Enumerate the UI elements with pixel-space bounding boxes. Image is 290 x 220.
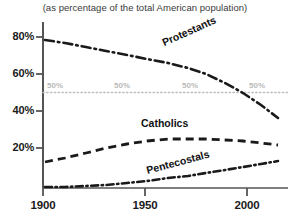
y-tick-label-60: 60% xyxy=(0,67,34,79)
x-tick-label-1950: 1950 xyxy=(123,199,167,211)
x-tick-label-1900: 1900 xyxy=(21,199,65,211)
chart-root: (as percentage of the total American pop… xyxy=(0,0,290,220)
reference-label-50-3: 50% xyxy=(182,81,198,90)
reference-label-50-1: 50% xyxy=(47,81,63,90)
series-line-protestants xyxy=(45,40,278,118)
reference-label-50-4: 50% xyxy=(249,81,265,90)
y-tick-label-20: 20% xyxy=(0,141,34,153)
series-line-catholics xyxy=(45,139,278,162)
y-tick-label-80: 80% xyxy=(0,30,34,42)
reference-label-50-2: 50% xyxy=(114,81,130,90)
x-tick-label-2000: 2000 xyxy=(225,199,269,211)
y-tick-label-40: 40% xyxy=(0,104,34,116)
series-label-catholics: Catholics xyxy=(141,117,188,129)
chart-canvas xyxy=(0,0,290,220)
